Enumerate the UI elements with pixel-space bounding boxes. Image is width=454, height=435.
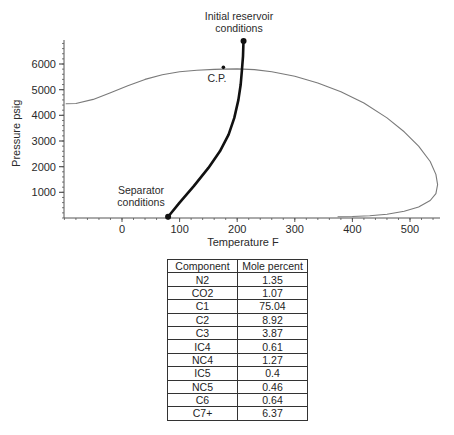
- table-body: N21.35CO21.07C175.04C28.92C33.87IC40.61N…: [168, 273, 308, 420]
- mole-percent-cell: 0.46: [238, 380, 308, 393]
- initial-reservoir-marker: [241, 38, 247, 44]
- y-tick-label: 1000: [32, 186, 56, 198]
- x-tick-label: 0: [119, 223, 125, 235]
- points-layer: [165, 38, 246, 220]
- critical-point-marker: [222, 66, 226, 70]
- mole-percent-cell: 8.92: [238, 313, 308, 326]
- component-cell: IC4: [168, 340, 238, 353]
- x-tick-label: 200: [228, 223, 246, 235]
- component-cell: C6: [168, 393, 238, 406]
- separator-label-line2: conditions: [117, 196, 164, 208]
- table-row: N21.35: [168, 273, 308, 286]
- mole-percent-cell: 1.07: [238, 286, 308, 299]
- table-row: CO21.07: [168, 286, 308, 299]
- y-tick-label: 4000: [32, 109, 56, 121]
- y-axis-title: Pressure psig: [10, 100, 22, 167]
- critical-point-label: C.P.: [207, 72, 226, 84]
- composition-table: Component Mole percent N21.35CO21.07C175…: [167, 259, 308, 421]
- x-tick-label: 300: [286, 223, 304, 235]
- x-axis-title: Temperature F: [207, 236, 279, 248]
- component-cell: C3: [168, 326, 238, 339]
- x-tick-label: 100: [170, 223, 188, 235]
- mole-percent-cell: 75.04: [238, 300, 308, 313]
- component-cell: C7+: [168, 407, 238, 420]
- initial-reservoir-label-line2: conditions: [215, 22, 262, 34]
- y-tick-label: 5000: [32, 84, 56, 96]
- production-path-line: [168, 41, 243, 217]
- column-header-component: Component: [168, 260, 238, 273]
- component-cell: NC5: [168, 380, 238, 393]
- separator-marker: [165, 214, 171, 220]
- separator-label-line1: Separator: [118, 184, 165, 196]
- table-row: C7+6.37: [168, 407, 308, 420]
- mole-percent-cell: 3.87: [238, 326, 308, 339]
- table-row: IC40.61: [168, 340, 308, 353]
- component-cell: CO2: [168, 286, 238, 299]
- table-row: C33.87: [168, 326, 308, 339]
- table-row: NC50.46: [168, 380, 308, 393]
- table-row: C175.04: [168, 300, 308, 313]
- mole-percent-cell: 6.37: [238, 407, 308, 420]
- component-cell: C1: [168, 300, 238, 313]
- table-header-row: Component Mole percent: [168, 260, 308, 273]
- labels-layer: Initial reservoirconditionsC.P.Separator…: [117, 10, 273, 208]
- x-tick-label: 500: [401, 223, 419, 235]
- mole-percent-cell: 1.27: [238, 353, 308, 366]
- y-tick-label: 2000: [32, 161, 56, 173]
- component-cell: NC4: [168, 353, 238, 366]
- x-tick-label: 400: [343, 223, 361, 235]
- table-row: NC41.27: [168, 353, 308, 366]
- component-cell: C2: [168, 313, 238, 326]
- initial-reservoir-label-line1: Initial reservoir: [205, 10, 274, 22]
- phase-diagram-chart: 0100200300400500100020003000400050006000…: [0, 0, 454, 250]
- mole-percent-cell: 0.4: [238, 367, 308, 380]
- table-row: C60.64: [168, 393, 308, 406]
- component-cell: N2: [168, 273, 238, 286]
- mole-percent-cell: 1.35: [238, 273, 308, 286]
- mole-percent-cell: 0.64: [238, 393, 308, 406]
- table-row: IC50.4: [168, 367, 308, 380]
- component-cell: IC5: [168, 367, 238, 380]
- column-header-mole-percent: Mole percent: [238, 260, 308, 273]
- table-row: C28.92: [168, 313, 308, 326]
- mole-percent-cell: 0.61: [238, 340, 308, 353]
- y-tick-label: 6000: [32, 58, 56, 70]
- y-tick-label: 3000: [32, 135, 56, 147]
